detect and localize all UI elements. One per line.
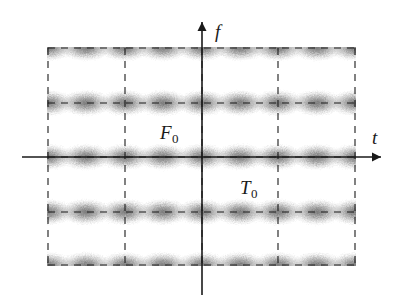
- frequency-axis-arrowhead: [198, 22, 207, 31]
- time-spacing-label: T0: [240, 177, 258, 201]
- time-axis-label: t: [372, 127, 378, 148]
- figure-canvas: tfF0T0: [0, 0, 404, 305]
- frequency-spacing-label: F0: [159, 122, 179, 146]
- frequency-spacing-label-base: F: [159, 122, 172, 143]
- frequency-spacing-label-subscript: 0: [172, 131, 179, 146]
- time-spacing-label-subscript: 0: [251, 186, 258, 201]
- frequency-axis-label: f: [215, 21, 223, 42]
- time-axis-arrowhead: [372, 153, 381, 162]
- time-frequency-lattice-figure: tfF0T0: [0, 0, 404, 305]
